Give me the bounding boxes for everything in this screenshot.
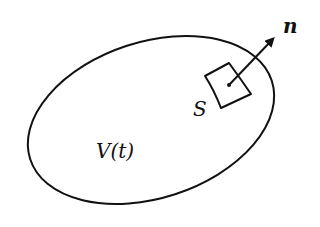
- volume-label: V(t): [96, 139, 134, 163]
- diagram-canvas: n S V(t): [0, 0, 320, 227]
- normal-vector-arrow: [229, 40, 272, 85]
- surface-label: S: [193, 97, 207, 121]
- volume-boundary: [6, 7, 296, 227]
- normal-label: n: [283, 14, 298, 38]
